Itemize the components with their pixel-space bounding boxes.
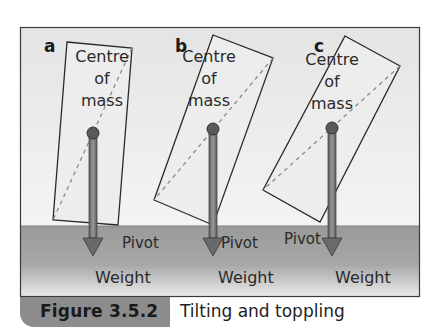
weight-arrow-shaft: [209, 129, 217, 238]
centre-of-mass-label: Centre: [182, 47, 236, 66]
centre-of-mass-label: of: [201, 69, 217, 88]
weight-arrow-shaft: [328, 128, 336, 238]
figure-number: Figure 3.5.2: [40, 301, 158, 321]
centre-of-mass-label: Centre: [305, 50, 359, 69]
tilting-toppling-diagram: aCentreofmassPivotWeightbCentreofmassPiv…: [0, 0, 439, 327]
centre-of-mass-label: Centre: [75, 47, 129, 66]
pivot-label: Pivot: [221, 234, 258, 252]
centre-of-mass-label: of: [94, 69, 110, 88]
centre-of-mass-label: mass: [311, 94, 353, 113]
panel-letter: a: [44, 36, 55, 56]
centre-of-mass-dot: [87, 127, 99, 139]
figure-caption: Tilting and toppling: [180, 301, 345, 321]
centre-of-mass-label: mass: [188, 91, 230, 110]
centre-of-mass-dot: [207, 123, 219, 135]
centre-of-mass-label: mass: [81, 91, 123, 110]
centre-of-mass-dot: [326, 122, 338, 134]
weight-label: Weight: [335, 268, 391, 287]
weight-label: Weight: [95, 268, 151, 287]
pivot-label: Pivot: [122, 234, 159, 252]
weight-arrow-shaft: [89, 133, 97, 238]
pivot-label: Pivot: [284, 230, 321, 248]
weight-label: Weight: [218, 268, 274, 287]
centre-of-mass-label: of: [324, 72, 340, 91]
